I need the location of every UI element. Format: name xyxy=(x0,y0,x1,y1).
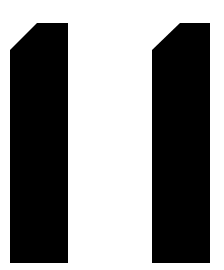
numeral-one-right xyxy=(152,23,210,263)
numeral-one-left xyxy=(10,23,68,263)
numeral-eleven xyxy=(0,0,224,270)
